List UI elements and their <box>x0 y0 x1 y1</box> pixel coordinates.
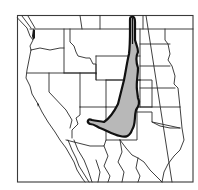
map-svg <box>0 0 198 190</box>
map-frame <box>18 16 194 183</box>
range-map: Distribution range map <box>0 0 198 190</box>
